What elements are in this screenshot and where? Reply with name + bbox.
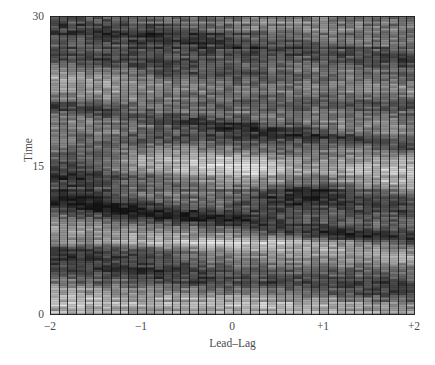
heatmap-plot-area: [50, 16, 415, 315]
x-tick-minus1: −1: [123, 320, 159, 332]
x-tick-zero: 0: [214, 320, 250, 332]
x-tick-plus2: +2: [396, 320, 432, 332]
y-tick-0: 0: [8, 308, 44, 320]
figure-root: 30 15 0 Time −2 −1 0 +1 +2 Lead–Lag: [0, 0, 435, 365]
x-tick-minus2: −2: [32, 320, 68, 332]
y-tick-30: 30: [8, 10, 44, 22]
x-axis-label: Lead–Lag: [50, 337, 415, 349]
y-axis-label: Time: [22, 120, 34, 180]
heatmap-canvas: [50, 16, 415, 315]
x-tick-plus1: +1: [305, 320, 341, 332]
